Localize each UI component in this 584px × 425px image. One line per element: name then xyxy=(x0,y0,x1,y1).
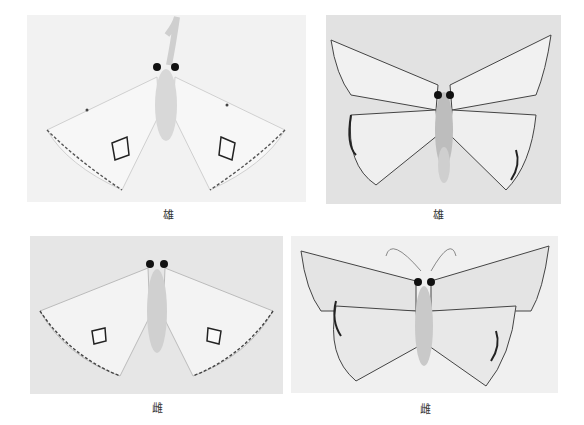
moth-image xyxy=(30,236,283,394)
caption-male-2: 雄 xyxy=(418,206,458,222)
moth-image xyxy=(326,15,561,204)
photo-male-1 xyxy=(27,15,306,202)
photo-female-2 xyxy=(291,236,558,393)
photo-male-2 xyxy=(326,15,561,204)
moth-image xyxy=(27,15,306,202)
caption-female-2: 雌 xyxy=(405,400,445,416)
photo-female-1 xyxy=(30,236,283,394)
moth-image xyxy=(291,236,558,393)
caption-male-1: 雄 xyxy=(148,206,188,222)
caption-female-1: 雌 xyxy=(137,399,177,415)
